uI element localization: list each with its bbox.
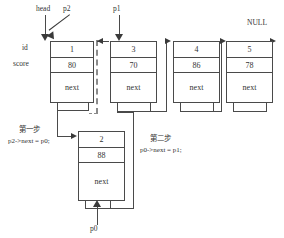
node-2-id-cell: 3	[111, 42, 156, 58]
broken-link-dashed-line	[96, 40, 98, 114]
list-node-3: 4 86 next	[173, 41, 220, 103]
step-1-title: 第一步	[19, 126, 40, 134]
new-node-bottom-stub-right	[110, 201, 111, 209]
list-node-2: 3 70 next	[110, 41, 157, 103]
pointer-label-p1: p1	[113, 5, 121, 13]
row-label-score: score	[13, 60, 29, 68]
p0-arrow-head	[93, 200, 101, 207]
broken-link-bottom-stub	[89, 113, 97, 114]
linked-list-diagram: head p2 p1 NULL id score 1 80 next 3 70 …	[0, 0, 284, 238]
list-node-1: 1 80 next	[50, 41, 94, 103]
step-1-arrow-vert	[57, 110, 58, 136]
node-3-id-cell: 4	[174, 42, 219, 58]
broken-link-arrow-head	[97, 38, 103, 44]
node-1-next-cell: next	[51, 73, 93, 102]
head-arrow-shaft	[45, 15, 46, 36]
node-4-next-cell: next	[227, 73, 272, 102]
link-3-to-4-base	[213, 111, 222, 112]
p2-arrow-shaft	[49, 14, 70, 30]
new-node-next-cell: next	[79, 163, 124, 200]
link-2-to-3-head	[165, 38, 171, 44]
link-2-to-3-shaft	[166, 40, 167, 112]
step-1-arrow-head	[71, 133, 77, 139]
row-label-id: id	[22, 44, 28, 52]
node-1-score-cell: 80	[51, 58, 93, 73]
new-node: 2 88 next	[78, 131, 125, 201]
p1-arrow-shaft	[119, 15, 120, 36]
step-2-code: p0->next = p1;	[140, 147, 182, 154]
node-1-id-cell: 1	[51, 42, 93, 58]
pointer-label-null: NULL	[247, 19, 267, 27]
node-2-next-cell: next	[111, 73, 156, 102]
pointer-label-head: head	[36, 5, 50, 13]
step-2-title: 第二步	[150, 135, 171, 143]
pointer-label-p0: p0	[90, 225, 98, 233]
node-4-score-cell: 78	[227, 58, 272, 73]
p1-arrow-head	[115, 34, 123, 41]
node-3-next-cell: next	[174, 73, 219, 102]
node-4-id-cell: 5	[227, 42, 272, 58]
link-3-to-4-shaft	[221, 40, 222, 112]
link-2-to-3-base	[150, 111, 167, 112]
node-3-bottom-stub-base	[180, 111, 214, 112]
node-3-score-cell: 86	[174, 58, 219, 73]
new-node-score-cell: 88	[79, 148, 124, 163]
p0-arrow-shaft	[97, 205, 98, 225]
link-3-to-4-head	[220, 38, 226, 44]
step-2-link-bottom	[110, 208, 134, 209]
node-2-score-cell: 70	[111, 58, 156, 73]
pointer-label-p2: p2	[63, 5, 71, 13]
step-2-link-vert	[133, 112, 134, 209]
node-1-bottom-stub-base	[57, 110, 89, 111]
list-node-4: 5 78 next	[226, 41, 273, 103]
new-node-id-cell: 2	[79, 132, 124, 148]
step-1-code: p2->next = p0;	[8, 138, 50, 145]
step-2-link-top	[117, 112, 134, 113]
node-4-bottom-stub-base	[233, 111, 267, 112]
